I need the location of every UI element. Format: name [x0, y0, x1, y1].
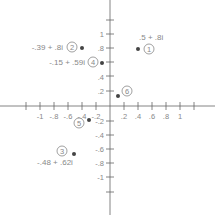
point-dot: [87, 118, 91, 122]
y-tick-label: .2: [98, 87, 104, 96]
point-4: 4 -.15 + .59i: [49, 57, 104, 67]
x-tick-label: -1: [37, 112, 44, 121]
x-tick-label: .8: [163, 112, 169, 121]
point-marker: 3: [60, 147, 64, 156]
x-tick-label: .4: [135, 112, 141, 121]
y-tick-label: -.2: [95, 117, 104, 126]
point-2: 2 -.39 + .8i: [32, 42, 84, 52]
point-dot: [100, 61, 104, 65]
x-tick-label: .6: [149, 112, 155, 121]
y-tick-label: .4: [98, 73, 104, 82]
point-1: 1 .5 + .8i: [136, 33, 163, 54]
point-marker: 1: [147, 45, 151, 54]
y-tick-label: -1: [97, 173, 104, 182]
point-3: 3 -.48 + .62i: [37, 146, 76, 167]
x-tick-labels: -1 -.8 -.6 -.4 -.2 .2 .4 .6 .8 1: [37, 112, 182, 121]
point-label: -.48 + .62i: [37, 158, 73, 167]
x-tick-label: -.8: [50, 112, 59, 121]
x-tick-label: 1: [178, 112, 182, 121]
y-tick-label: -.6: [95, 145, 104, 154]
y-tick-label: .8: [98, 44, 104, 53]
point-label: .5 + .8i: [139, 33, 163, 42]
point-dot: [136, 47, 140, 51]
point-label: -.39 + .8i: [32, 43, 64, 52]
point-5: 5: [74, 118, 91, 128]
x-tick-label: .2: [121, 112, 127, 121]
complex-plane-diagram: -1 -.8 -.6 -.4 -.2 .2 .4 .6 .8 1 1 .8 .4…: [0, 0, 215, 215]
point-dot: [80, 46, 84, 50]
point-6: 6: [116, 86, 132, 98]
y-tick-label: 1: [100, 30, 104, 39]
point-marker: 6: [125, 87, 129, 96]
y-tick-label: -.8: [95, 159, 104, 168]
point-marker: 5: [77, 119, 81, 128]
point-marker: 4: [91, 58, 95, 67]
point-label: -.15 + .59i: [49, 58, 85, 67]
point-marker: 2: [70, 43, 74, 52]
x-tick-label: -.6: [64, 112, 73, 121]
y-tick-label: -.4: [95, 131, 104, 140]
point-dot: [116, 94, 120, 98]
point-dot: [72, 152, 76, 156]
